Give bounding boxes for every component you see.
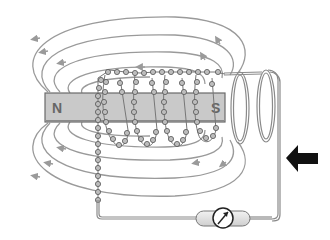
galvanometer bbox=[196, 208, 250, 228]
motion-arrow-left-icon bbox=[286, 145, 318, 172]
south-pole-label: S bbox=[211, 100, 220, 116]
north-pole-label: N bbox=[52, 100, 62, 116]
induction-diagram: N S bbox=[0, 0, 330, 240]
coil-beads bbox=[95, 69, 220, 202]
